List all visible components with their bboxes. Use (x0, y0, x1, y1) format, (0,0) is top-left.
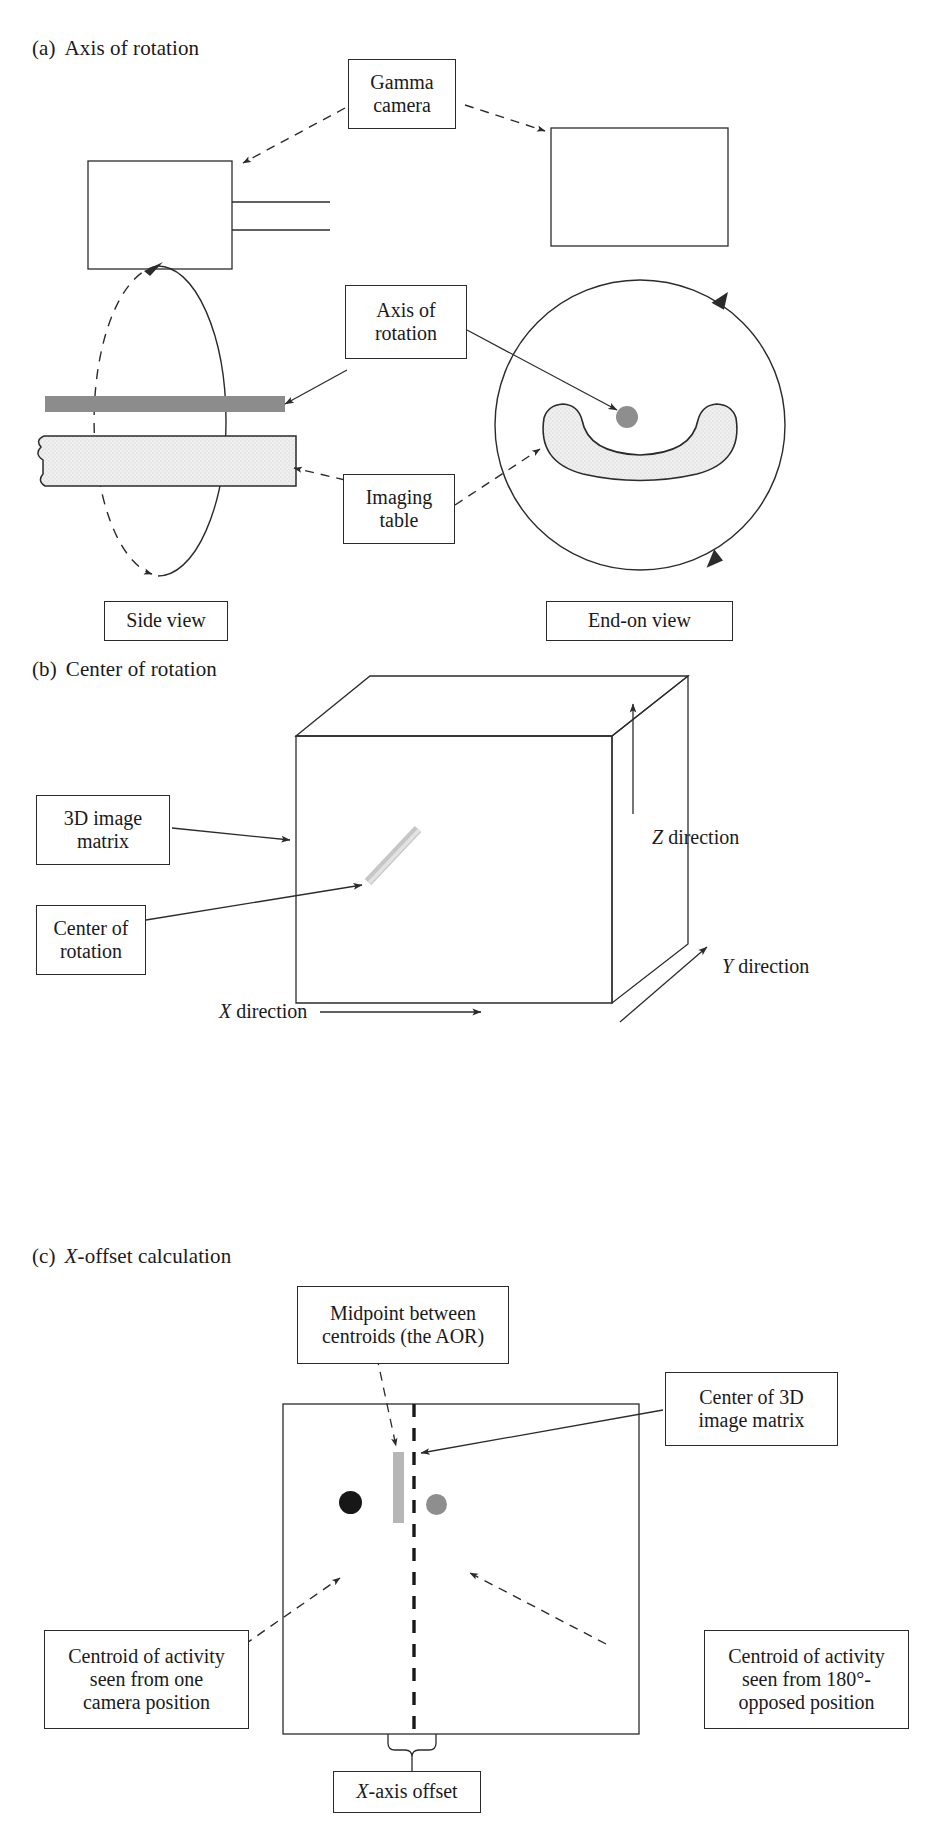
imaging-table-endon (543, 404, 737, 481)
leader-image-matrix (172, 828, 290, 840)
label-gamma-camera-text: Gamma camera (370, 71, 433, 117)
panel-a-title: Axis of rotation (65, 36, 200, 60)
imaging-table-side (38, 436, 296, 486)
panel-b-caption: (b)Center of rotation (32, 658, 217, 681)
label-end-on-view-text: End-on view (588, 609, 691, 632)
label-side-view: Side view (104, 601, 228, 641)
label-center-3d-matrix-text: Center of 3D image matrix (698, 1386, 804, 1432)
aor-midpoint-marker (393, 1452, 404, 1523)
axis-of-rotation-bar (45, 396, 285, 412)
centroid-dot-dark (339, 1491, 362, 1514)
label-x-direction-text: direction (231, 1000, 307, 1022)
label-centroid-one-camera: Centroid of activity seen from one camer… (44, 1630, 249, 1729)
projection-frame (283, 1404, 639, 1734)
label-center-of-rotation: Center of rotation (36, 905, 146, 975)
rotation-circle-arrow-bottom (702, 549, 725, 573)
label-imaging-table: Imaging table (343, 474, 455, 544)
rotation-ellipse-solid (158, 266, 226, 576)
label-z-direction: Z direction (652, 826, 739, 848)
label-imaging-table-text: Imaging table (366, 486, 433, 532)
y-direction-arrow (620, 947, 707, 1022)
panel-a-caption: (a)Axis of rotation (32, 37, 199, 60)
label-image-matrix-text: 3D image matrix (64, 807, 142, 853)
centroid-dot-light (426, 1494, 447, 1515)
leader-aor-side (285, 370, 347, 404)
panel-c-title-axis: X (65, 1244, 78, 1268)
label-image-matrix: 3D image matrix (36, 795, 170, 865)
panel-b-title: Center of rotation (66, 657, 217, 681)
leader-gamma-left (243, 108, 345, 163)
label-center-of-rotation-text: Center of rotation (54, 917, 129, 963)
label-centroid-one-camera-text: Centroid of activity seen from one camer… (68, 1645, 225, 1715)
camera-head-side (88, 161, 330, 269)
rotation-circle-endon (495, 280, 785, 570)
label-midpoint-aor-text: Midpoint between centroids (the AOR) (322, 1302, 484, 1348)
panel-c-tag: (c) (32, 1244, 56, 1268)
leader-gamma-right (465, 105, 545, 131)
label-x-axis-offset-rest: -axis offset (369, 1780, 458, 1802)
figure-root: (a)Axis of rotation Gamma camera Axis of… (0, 0, 941, 1827)
label-midpoint-aor: Midpoint between centroids (the AOR) (297, 1286, 509, 1364)
x-offset-brace (388, 1734, 436, 1757)
image-matrix-cube (296, 676, 688, 1003)
label-x-axis-offset: X-axis offset (333, 1771, 481, 1813)
label-z-direction-axis: Z (652, 826, 663, 848)
label-x-axis-offset-text: X-axis offset (356, 1780, 457, 1803)
label-center-3d-matrix: Center of 3D image matrix (665, 1372, 838, 1446)
rotation-ellipse-dashed (94, 266, 158, 574)
label-end-on-view: End-on view (546, 601, 733, 641)
label-z-direction-text: direction (663, 826, 739, 848)
label-side-view-text: Side view (126, 609, 205, 632)
panel-c-title: -offset calculation (78, 1244, 232, 1268)
label-x-direction: X direction (219, 1000, 307, 1022)
leader-table-endon (455, 449, 540, 505)
label-axis-of-rotation: Axis of rotation (345, 285, 467, 359)
panel-b-tag: (b) (32, 657, 57, 681)
label-gamma-camera: Gamma camera (348, 59, 456, 129)
center-of-rotation-rod-highlight (369, 830, 419, 883)
label-centroid-opposed-text: Centroid of activity seen from 180°- opp… (728, 1645, 885, 1715)
label-y-direction-text: direction (733, 955, 809, 977)
label-y-direction-axis: Y (722, 955, 733, 977)
camera-head-endon (551, 128, 728, 246)
label-axis-of-rotation-text: Axis of rotation (375, 299, 437, 345)
leader-center-of-rotation (146, 885, 362, 920)
label-x-axis-offset-axis: X (356, 1780, 368, 1802)
label-centroid-opposed: Centroid of activity seen from 180°- opp… (704, 1630, 909, 1729)
label-y-direction: Y direction (722, 955, 809, 977)
panel-c-caption: (c)X-offset calculation (32, 1245, 231, 1268)
panel-a-tag: (a) (32, 36, 56, 60)
leader-table-side (294, 468, 345, 480)
leader-aor-endon (467, 330, 617, 410)
label-x-direction-axis: X (219, 1000, 231, 1022)
axis-center-dot (616, 406, 638, 428)
